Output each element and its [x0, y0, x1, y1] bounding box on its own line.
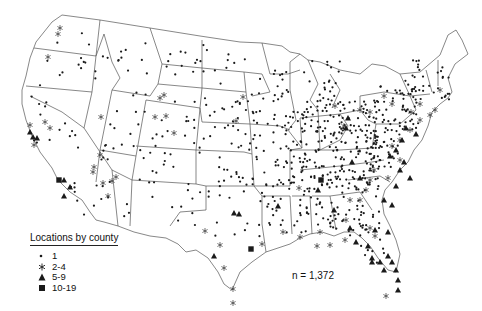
legend-item-10-19: 10-19 — [30, 283, 118, 294]
asterisk-icon — [38, 263, 52, 271]
legend-title: Locations by county — [30, 232, 118, 246]
sample-size-annotation: n = 1,372 — [292, 270, 334, 281]
legend-item-2-4: 2-4 — [30, 262, 118, 273]
dot-icon — [38, 253, 52, 259]
legend-label: 10-19 — [52, 282, 76, 294]
legend-item-1: 1 — [30, 251, 118, 262]
us-location-map: Locations by county 1 2-4 5-9 10-19 n = … — [0, 0, 482, 311]
triangle-icon — [38, 273, 52, 281]
square-icon — [38, 284, 52, 292]
legend: Locations by county 1 2-4 5-9 10-19 — [30, 232, 118, 293]
